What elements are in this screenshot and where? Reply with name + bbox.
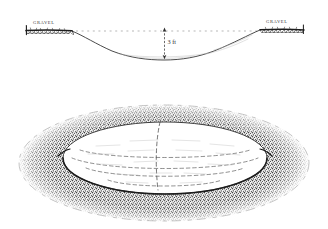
right-gravel-label: GRAVEL [266,19,288,24]
left-gravel-label: GRAVEL [33,20,55,25]
depth-dimension-label: 3 ft [168,38,177,45]
figure-container: GRAVEL GRAVEL 3 ft [0,0,328,229]
illustration-svg: GRAVEL GRAVEL 3 ft [0,0,328,229]
